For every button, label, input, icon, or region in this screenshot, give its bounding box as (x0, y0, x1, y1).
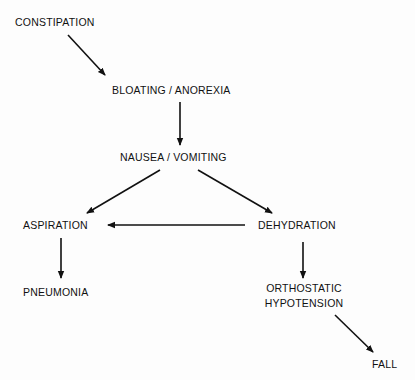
arrow-constipation-to-bloating (68, 35, 105, 75)
diagram-arrows (0, 0, 415, 380)
node-orthostatic-line2: HYPOTENSION (257, 296, 351, 310)
arrow-nausea-to-dehydration (198, 170, 272, 213)
arrow-orthostatic-to-fall (335, 315, 373, 352)
arrow-nausea-to-aspiration (87, 170, 160, 213)
node-aspiration: ASPIRATION (23, 218, 88, 232)
node-orthostatic-line1: ORTHOSTATIC (257, 281, 351, 295)
node-orthostatic-hypotension: ORTHOSTATIC HYPOTENSION (257, 281, 351, 310)
node-constipation: CONSTIPATION (15, 15, 95, 29)
node-fall: FALL (372, 357, 397, 371)
node-nausea-vomiting: NAUSEA / VOMITING (120, 150, 227, 164)
node-pneumonia: PNEUMONIA (23, 285, 88, 299)
node-dehydration: DEHYDRATION (258, 218, 336, 232)
node-bloating-anorexia: BLOATING / ANOREXIA (112, 83, 231, 97)
diagram-canvas: CONSTIPATION BLOATING / ANOREXIA NAUSEA … (0, 0, 415, 380)
